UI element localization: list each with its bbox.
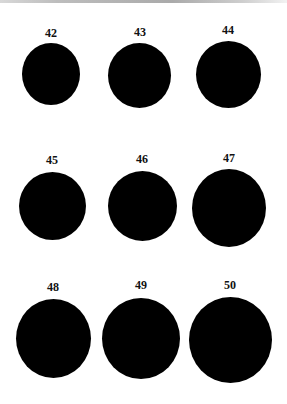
item-label: 46	[136, 152, 148, 167]
circle-43	[108, 43, 171, 108]
item-label: 42	[45, 26, 57, 41]
circle-42	[22, 43, 80, 105]
circle-47	[192, 169, 266, 247]
item-label: 44	[222, 23, 234, 38]
item-label: 47	[223, 151, 235, 166]
circle-46	[108, 171, 177, 241]
top-border-line	[0, 0, 287, 3]
circle-50	[189, 297, 272, 383]
item-label: 43	[134, 25, 146, 40]
item-label: 45	[46, 153, 58, 168]
circle-49	[102, 298, 180, 379]
circle-44	[196, 41, 261, 108]
item-label: 48	[47, 280, 59, 295]
item-label: 50	[224, 278, 236, 293]
circle-45	[19, 172, 86, 240]
circle-48	[16, 299, 91, 378]
item-label: 49	[135, 278, 147, 293]
